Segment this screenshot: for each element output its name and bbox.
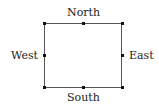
mid-point-east (121, 54, 124, 57)
mid-point-north (82, 22, 85, 25)
corner-point-se (121, 86, 124, 89)
boundary-rectangle (44, 23, 122, 88)
corner-point-sw (43, 86, 46, 89)
label-west: West (11, 50, 38, 62)
label-east: East (129, 50, 154, 62)
corner-point-ne (121, 22, 124, 25)
corner-point-nw (43, 22, 46, 25)
label-north: North (67, 7, 100, 19)
mid-point-west (43, 54, 46, 57)
label-south: South (67, 92, 100, 104)
mid-point-south (82, 86, 85, 89)
